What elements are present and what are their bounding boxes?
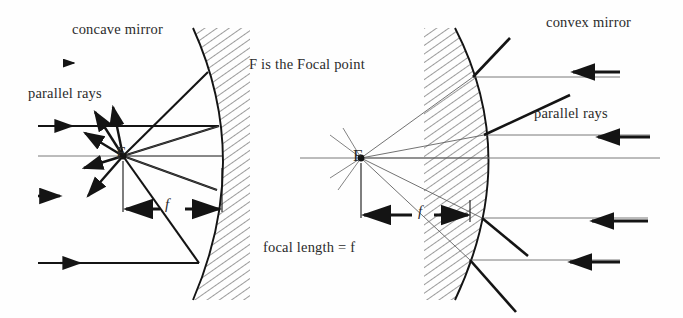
concave-mirror-diagram xyxy=(38,20,265,310)
parallel-rays-label-right: parallel rays xyxy=(534,105,608,122)
focal-length-symbol-left: f xyxy=(165,196,169,213)
concave-construction-rays xyxy=(123,126,222,190)
concave-reflected-rays xyxy=(123,72,219,263)
focus-marker-label-right: F xyxy=(353,146,363,166)
focal-length-note: focal length = f xyxy=(263,239,355,256)
concave-incoming-rays xyxy=(38,126,219,263)
focal-point-note: F is the Focal point xyxy=(249,56,365,73)
convex-mirror-label: convex mirror xyxy=(546,14,631,31)
diagram-canvas xyxy=(0,0,683,318)
parallel-rays-label-left: parallel rays xyxy=(28,85,102,102)
focus-marker-label-left: F xyxy=(116,143,126,163)
concave-mirror-label: concave mirror xyxy=(72,21,163,38)
optics-ray-diagram-figure: concave mirror convex mirror parallel ra… xyxy=(0,0,683,318)
convex-ray-direction-arrows xyxy=(570,72,650,262)
focal-length-symbol-right: f xyxy=(418,203,422,220)
convex-mirror-hatching xyxy=(420,20,525,310)
